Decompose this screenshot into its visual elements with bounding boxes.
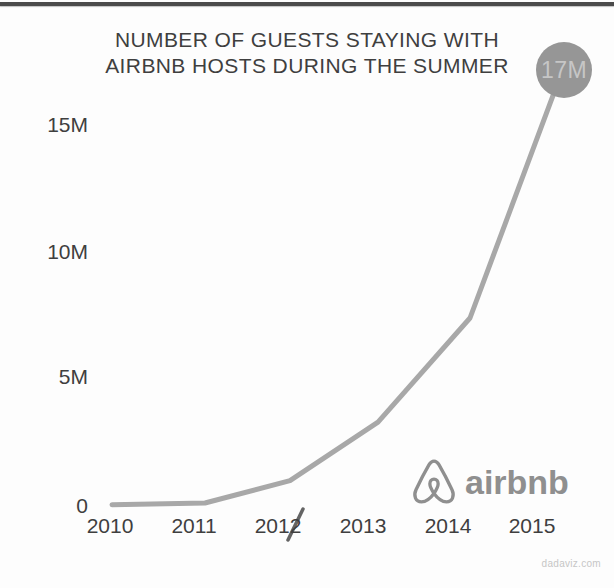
infographic-canvas: NUMBER OF GUESTS STAYING WITH AIRBNB HOS… — [0, 0, 614, 588]
x-axis-tick-2015: 2015 — [490, 515, 574, 537]
source-credit: dadaviz.com — [542, 558, 601, 569]
x-axis-tick-2012: 2012 — [236, 515, 320, 537]
value-callout-label: 17M — [541, 57, 587, 84]
guests-trend-line — [112, 74, 561, 505]
y-axis-tick-15m: 15M — [20, 114, 88, 136]
airbnb-logo: airbnb — [410, 453, 580, 509]
airbnb-wordmark: airbnb — [465, 463, 569, 502]
x-axis-tick-2013: 2013 — [321, 515, 405, 537]
y-axis-tick-10m: 10M — [20, 241, 88, 263]
airbnb-belo-icon — [410, 455, 458, 508]
x-axis-tick-2011: 2011 — [152, 515, 236, 537]
value-callout-bubble: 17M — [536, 42, 592, 98]
y-axis-tick-0: 0 — [20, 495, 88, 517]
y-axis-tick-5m: 5M — [20, 366, 88, 388]
x-axis-tick-2010: 2010 — [68, 515, 152, 537]
x-axis-tick-2014: 2014 — [406, 515, 490, 537]
